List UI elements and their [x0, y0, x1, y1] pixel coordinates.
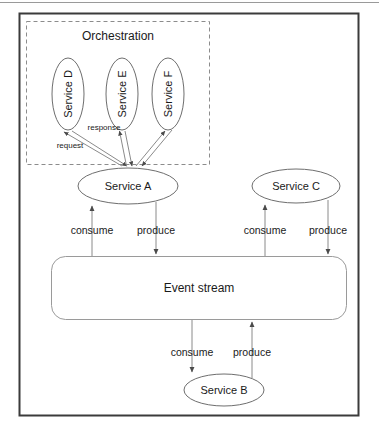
event-stream-label: Event stream [164, 282, 235, 294]
service-e-label: Service E [117, 70, 128, 117]
edge-service-a-to-service-e-request [120, 131, 127, 166]
service-a-produce-label: produce [137, 225, 175, 236]
diagram-canvas: Orchestration Service D Service E Servic… [0, 0, 379, 434]
service-c-label: Service C [272, 181, 320, 192]
service-d-label: Service D [63, 70, 74, 118]
edge-service-e-to-service-a-response [125, 131, 132, 166]
edge-service-a-to-service-f-request [136, 131, 165, 166]
service-a-label: Service A [105, 181, 151, 192]
service-b-label: Service B [200, 385, 247, 396]
diagram-vector-layer [0, 0, 379, 434]
response-edge-label: response [88, 124, 121, 132]
service-b-produce-label: produce [233, 347, 271, 358]
service-b-consume-label: consume [171, 347, 214, 358]
edge-service-f-to-service-a-response [142, 130, 172, 166]
service-c-consume-label: consume [244, 225, 287, 236]
service-a-consume-label: consume [71, 225, 114, 236]
service-f-label: Service F [163, 71, 174, 117]
request-edge-label: request [57, 142, 84, 150]
service-c-produce-label: produce [309, 225, 347, 236]
orchestration-group-title: Orchestration [82, 30, 154, 42]
